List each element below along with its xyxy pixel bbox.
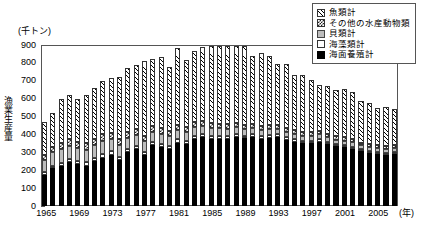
bar-segment bbox=[225, 46, 230, 124]
bar-segment bbox=[217, 128, 222, 135]
bar-segment bbox=[392, 109, 397, 145]
x-axis-tick-label: 1977 bbox=[136, 209, 156, 218]
legend-label: 貝類計 bbox=[329, 29, 356, 38]
bar-segment bbox=[317, 85, 322, 131]
bar-segment bbox=[159, 134, 164, 144]
bar-segment bbox=[200, 137, 205, 206]
bar-segment bbox=[75, 99, 80, 142]
bar-segment bbox=[175, 48, 180, 125]
legend-swatch-icon bbox=[317, 30, 325, 38]
bar bbox=[342, 46, 347, 206]
bar bbox=[50, 46, 55, 206]
bar bbox=[350, 46, 355, 206]
bar-segment bbox=[234, 46, 239, 123]
bar-segment bbox=[142, 155, 147, 206]
bar-segment bbox=[275, 137, 280, 206]
y-axis-tick-label: 100 bbox=[2, 184, 36, 193]
bar-segment bbox=[134, 149, 139, 206]
bar-segment bbox=[134, 65, 139, 129]
bar-segment bbox=[142, 61, 147, 136]
bar-segment bbox=[242, 138, 247, 206]
bar-segment bbox=[109, 139, 114, 151]
bar-segment bbox=[284, 64, 289, 128]
bar-segment bbox=[309, 80, 314, 132]
bar-segment bbox=[333, 146, 338, 206]
bar-segment bbox=[100, 141, 105, 154]
bar bbox=[309, 46, 314, 206]
fishery-production-chart: (千トン) 漁業生産量 9008007006005004003002001000… bbox=[0, 0, 422, 235]
bar-segment bbox=[192, 139, 197, 206]
bar bbox=[117, 46, 122, 206]
bar-segment bbox=[42, 175, 47, 206]
x-axis-tick-label: 2005 bbox=[368, 209, 388, 218]
bar-segment bbox=[317, 142, 322, 206]
legend-label: 海面養殖計 bbox=[329, 50, 374, 59]
bar-segment bbox=[225, 139, 230, 206]
bar-segment bbox=[209, 139, 214, 206]
bar-segment bbox=[375, 108, 380, 146]
x-axis-tick-label: 1969 bbox=[69, 209, 89, 218]
y-axis-tick-label: 700 bbox=[2, 76, 36, 85]
bar-segment bbox=[217, 46, 222, 124]
bar-segment bbox=[333, 90, 338, 137]
bar-segment bbox=[175, 130, 180, 139]
bar-segment bbox=[300, 75, 305, 132]
x-axis-tick-label: 1981 bbox=[169, 209, 189, 218]
bar-segment bbox=[358, 151, 363, 206]
bar-segment bbox=[325, 144, 330, 206]
bar-segment bbox=[259, 139, 264, 206]
bar-segment bbox=[75, 164, 80, 206]
bar bbox=[134, 46, 139, 206]
bar-segment bbox=[100, 134, 105, 141]
legend-item: その他の水産動物類 bbox=[317, 18, 410, 28]
bar bbox=[375, 46, 380, 206]
bar-segment bbox=[342, 147, 347, 206]
bar-segment bbox=[275, 64, 280, 125]
bar-segment bbox=[383, 155, 388, 206]
bar-segment bbox=[150, 145, 155, 206]
bar bbox=[92, 46, 97, 206]
legend-item: 貝類計 bbox=[317, 29, 410, 39]
y-axis-tick-label: 900 bbox=[2, 41, 36, 50]
bar-segment bbox=[92, 145, 97, 158]
bar-segment bbox=[167, 136, 172, 145]
bar-segment bbox=[250, 137, 255, 206]
bar-segment bbox=[159, 147, 164, 206]
bar bbox=[59, 46, 64, 206]
bar-segment bbox=[367, 153, 372, 206]
bar-segment bbox=[109, 78, 114, 133]
bar-segment bbox=[292, 142, 297, 206]
bar bbox=[259, 46, 264, 206]
bar-segment bbox=[125, 152, 130, 206]
bar-segment bbox=[184, 144, 189, 206]
bar bbox=[109, 46, 114, 206]
bar-segment bbox=[84, 150, 89, 163]
bar-segment bbox=[67, 95, 72, 139]
bar-segment bbox=[267, 56, 272, 125]
x-axis-tick-label: 1989 bbox=[235, 209, 255, 218]
legend-swatch-icon bbox=[317, 40, 325, 48]
bar-segment bbox=[150, 59, 155, 126]
bar bbox=[383, 46, 388, 206]
bar bbox=[292, 46, 297, 206]
bar-segment bbox=[134, 135, 139, 146]
bar bbox=[333, 46, 338, 206]
x-axis-unit-label: (年) bbox=[399, 209, 414, 218]
bar-group bbox=[42, 46, 397, 206]
bar-segment bbox=[184, 132, 189, 141]
bar bbox=[167, 46, 172, 206]
y-axis-tick-label: 200 bbox=[2, 166, 36, 175]
bar bbox=[209, 46, 214, 206]
bar-segment bbox=[42, 122, 47, 155]
bar bbox=[84, 46, 89, 206]
bar-segment bbox=[358, 101, 363, 142]
legend-swatch-icon bbox=[317, 19, 325, 27]
bar bbox=[225, 46, 230, 206]
bar bbox=[234, 46, 239, 206]
y-axis-unit-label: (千トン) bbox=[18, 24, 51, 37]
bar-segment bbox=[59, 99, 64, 143]
bar bbox=[150, 46, 155, 206]
bar-segment bbox=[150, 132, 155, 142]
legend-label: 海藻類計 bbox=[329, 40, 365, 49]
bar-segment bbox=[184, 60, 189, 127]
